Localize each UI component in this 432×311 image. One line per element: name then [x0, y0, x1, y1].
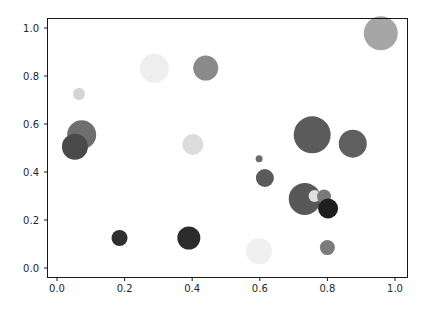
y-tick-label: 0.4: [23, 167, 39, 178]
scatter-point: [318, 198, 338, 218]
scatter-point: [339, 130, 367, 158]
scatter-point: [256, 155, 263, 162]
scatter-point: [182, 134, 203, 155]
scatter-point: [256, 169, 274, 187]
scatter-plot-figure: 0.00.20.40.60.81.0 0.00.20.40.60.81.0: [0, 0, 432, 311]
scatter-plot-canvas: 0.00.20.40.60.81.0 0.00.20.40.60.81.0: [0, 0, 432, 311]
scatter-point: [62, 134, 88, 160]
scatter-point: [294, 116, 331, 153]
scatter-point: [73, 88, 85, 100]
y-tick-label: 0.8: [23, 71, 39, 82]
figure-background: [0, 0, 432, 311]
x-tick-label: 0.4: [184, 283, 200, 294]
y-tick-label: 0.0: [23, 263, 39, 274]
scatter-point: [193, 56, 218, 81]
y-tick-label: 1.0: [23, 23, 39, 34]
scatter-point: [320, 240, 335, 255]
x-tick-label: 0.6: [252, 283, 268, 294]
x-tick-label: 0.0: [49, 283, 65, 294]
x-tick-label: 0.2: [117, 283, 133, 294]
x-tick-label: 0.8: [319, 283, 335, 294]
scatter-point: [364, 16, 398, 50]
scatter-point: [112, 230, 128, 246]
y-tick-label: 0.6: [23, 119, 39, 130]
x-tick-label: 1.0: [387, 283, 403, 294]
scatter-point: [246, 238, 272, 264]
scatter-point: [140, 54, 169, 83]
y-tick-label: 0.2: [23, 215, 39, 226]
scatter-point: [177, 227, 200, 250]
